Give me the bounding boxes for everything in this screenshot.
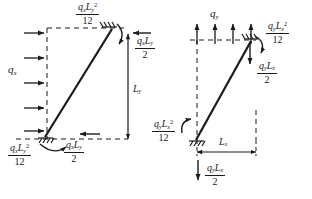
right-load-arrows <box>197 24 251 44</box>
left-bottom-reaction-label: qxLy 2 <box>64 140 84 164</box>
right-diagram-group <box>182 24 263 180</box>
right-bottom-reaction-label: qyLx 2 <box>205 163 225 187</box>
left-dimension-label: Ly <box>133 84 141 95</box>
structural-diagram-figure: qx qxLy2 12 qxLy 2 Ly qxLy2 12 qxLy 2 <box>0 0 312 199</box>
right-inclined-member <box>196 41 251 140</box>
right-top-reaction-label: qyLx 2 <box>257 61 277 85</box>
left-top-reaction-label: qxLy 2 <box>135 36 155 60</box>
left-load-label: qx <box>8 64 17 76</box>
left-inclined-member <box>45 29 112 137</box>
left-diagram-group <box>16 22 151 151</box>
left-bottom-moment-label: qxLy2 12 <box>8 143 31 167</box>
left-bottom-fixed-support <box>38 138 54 143</box>
right-bottom-moment-label: qyLx2 12 <box>152 119 175 143</box>
right-load-label: qy <box>210 8 219 20</box>
right-dimension-label: Lx <box>219 137 227 148</box>
right-top-moment-label: qyLx2 12 <box>266 21 289 45</box>
left-top-moment-label: qxLy2 12 <box>76 2 99 26</box>
left-top-moment-arrow <box>117 24 122 44</box>
left-bottom-moment-arrow <box>40 144 66 151</box>
right-bottom-moment-arrow <box>182 119 191 133</box>
left-top-fixed-support <box>100 22 117 27</box>
left-load-arrows <box>24 33 44 131</box>
